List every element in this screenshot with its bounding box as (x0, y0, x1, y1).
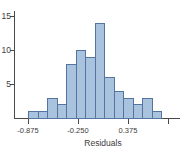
y-tick-label: 5 (0, 80, 11, 89)
x-tick-label: -0.250 (61, 126, 95, 135)
y-tick-label: 10 (0, 46, 11, 55)
y-tick-label: 15 (0, 12, 11, 21)
x-axis-title: Residuals (33, 138, 173, 148)
x-tick-mark (78, 119, 79, 124)
x-tick-mark (128, 119, 129, 124)
x-tick-mark (168, 119, 169, 124)
histogram-bar (152, 111, 162, 119)
residuals-histogram-figure: 51015 -0.875-0.2500.375 Residuals (0, 0, 187, 152)
x-tick-mark (28, 119, 29, 124)
x-tick-label: -0.875 (11, 126, 45, 135)
plot-area: 51015 -0.875-0.2500.375 (0, 0, 187, 152)
y-axis (14, 11, 15, 119)
x-tick-label: 0.375 (111, 126, 145, 135)
